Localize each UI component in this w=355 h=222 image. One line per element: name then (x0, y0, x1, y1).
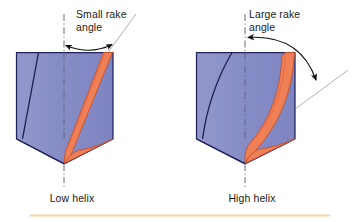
left-small-rake-angle-arc (66, 45, 112, 51)
left-drill-diagram (17, 14, 137, 188)
figure-root: Small rakeangle Large rakeangle Low heli… (0, 0, 355, 222)
small-rake-angle-label-line1: Small rake (76, 8, 127, 20)
small-rake-angle-label: Small rakeangle (76, 8, 127, 34)
high-helix-caption: High helix (215, 192, 289, 205)
large-rake-angle-label: Large rakeangle (249, 8, 300, 34)
small-rake-angle-label-line2: angle (76, 21, 102, 33)
low-helix-caption: Low helix (36, 192, 108, 205)
drill-comparison-illustration (0, 0, 355, 222)
right-drill-diagram (197, 14, 349, 188)
large-rake-angle-label-line2: angle (249, 21, 275, 33)
large-rake-angle-label-line1: Large rake (249, 8, 300, 20)
